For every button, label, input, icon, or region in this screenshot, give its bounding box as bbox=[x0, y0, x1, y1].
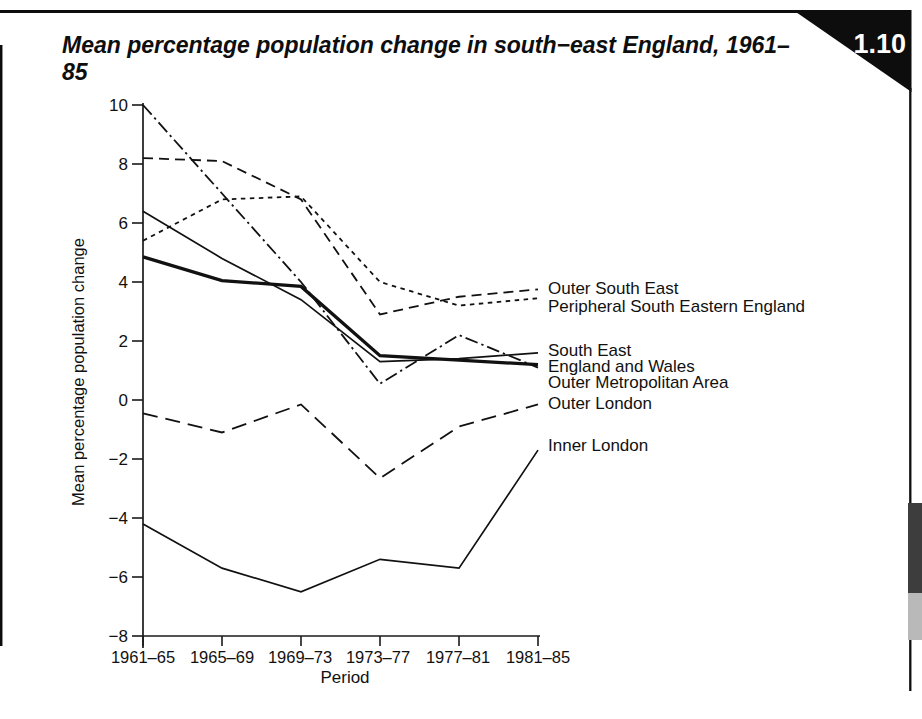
series-line-outer-south-east bbox=[143, 158, 538, 314]
y-axis-title: Mean percentage population change bbox=[69, 222, 89, 522]
y-tick-label: 4 bbox=[76, 273, 128, 291]
x-axis-title: Period bbox=[295, 668, 395, 688]
data-series-lines bbox=[143, 105, 538, 592]
right-edge-light-bar bbox=[908, 593, 922, 640]
x-tick-label: 1969–73 bbox=[260, 648, 340, 666]
series-line-peripheral-south-eastern-england bbox=[143, 196, 538, 305]
y-tick-label: −8 bbox=[76, 627, 128, 645]
legend-label-inner-london: Inner London bbox=[548, 436, 878, 455]
figure-number-badge: 1.10 bbox=[828, 29, 906, 60]
y-tick-label: 8 bbox=[76, 155, 128, 173]
x-tick-label: 1977–81 bbox=[418, 648, 498, 666]
series-line-inner-london bbox=[143, 450, 538, 592]
x-tick-label: 1973–77 bbox=[338, 648, 418, 666]
y-tick-label: 10 bbox=[76, 96, 128, 114]
legend-label-outer-london: Outer London bbox=[548, 394, 878, 413]
y-tick-label: 6 bbox=[76, 214, 128, 232]
x-tick-label: 1961–65 bbox=[103, 648, 183, 666]
y-tick-label: −2 bbox=[76, 450, 128, 468]
x-tick-label: 1965–69 bbox=[182, 648, 262, 666]
y-tick-label: −6 bbox=[76, 568, 128, 586]
y-tick-label: −4 bbox=[76, 509, 128, 527]
series-line-outer-metropolitan-area bbox=[143, 105, 538, 384]
series-line-outer-london bbox=[143, 404, 538, 478]
chart-title: Mean percentage population change in sou… bbox=[62, 32, 807, 86]
y-tick-label: 0 bbox=[76, 391, 128, 409]
right-edge-dark-bar bbox=[908, 503, 922, 593]
axis-tick-marks bbox=[132, 105, 538, 646]
legend-label-outer-south-east: Outer South East bbox=[548, 279, 878, 298]
y-tick-label: 2 bbox=[76, 332, 128, 350]
scanned-figure-page: { "page": { "figure_number": "1.10", "ti… bbox=[0, 0, 922, 719]
series-line-england-and-wales bbox=[143, 257, 538, 365]
legend-label-outer-metropolitan: Outer Metropolitan Area bbox=[548, 373, 878, 392]
legend-label-peripheral-see: Peripheral South Eastern England bbox=[548, 297, 878, 316]
series-line-south-east bbox=[143, 211, 538, 361]
x-tick-label: 1981–85 bbox=[498, 648, 578, 666]
